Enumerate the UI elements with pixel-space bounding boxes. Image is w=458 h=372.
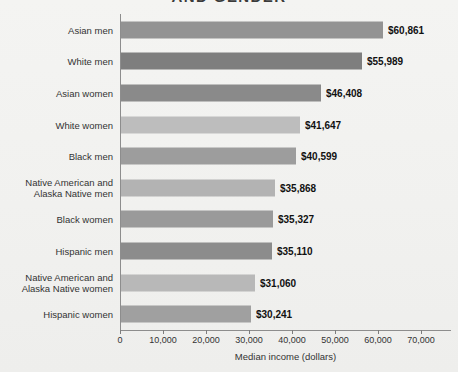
- plot-area: Asian men$60,861White men$55,989Asian wo…: [0, 14, 458, 330]
- bar-category-label: Hispanic men: [0, 245, 113, 256]
- bar-row: Asian men$60,861: [0, 14, 458, 46]
- bar: [121, 211, 273, 228]
- x-axis-tick-mark: [120, 330, 121, 334]
- bar-category-label-line1: Hispanic women: [43, 309, 113, 320]
- bar-category-label: Black men: [0, 151, 113, 162]
- x-axis-tick-label: 40,000: [278, 335, 306, 345]
- bar-value-label: $46,408: [326, 87, 362, 98]
- bar-row: Native American andAlaska Native men$35,…: [0, 172, 458, 204]
- bar-row: Asian women$46,408: [0, 77, 458, 109]
- bar-category-label-line1: Native American and: [25, 272, 113, 283]
- bar: [121, 148, 296, 165]
- x-axis-tick-mark: [335, 330, 336, 334]
- x-axis-tick-label: 30,000: [235, 335, 263, 345]
- x-axis-tick-mark: [378, 330, 379, 334]
- chart-container: AND GENDER Asian men$60,861White men$55,…: [0, 0, 458, 372]
- bar: [121, 179, 275, 196]
- bar-category-label-line2: Alaska Native women: [0, 283, 113, 294]
- bar: [121, 274, 255, 291]
- bar-row: White women$41,647: [0, 109, 458, 141]
- bar: [121, 84, 321, 101]
- x-axis-title: Median income (dollars): [120, 351, 451, 362]
- x-axis: 010,00020,00030,00040,00050,00060,00070,…: [0, 330, 458, 372]
- bar-row: White men$55,989: [0, 46, 458, 78]
- bar-value-label: $35,110: [277, 245, 313, 256]
- bar: [121, 116, 300, 133]
- bar-row: Native American andAlaska Native women$3…: [0, 267, 458, 299]
- bar-row: Black women$35,327: [0, 204, 458, 236]
- bar-category-label-line1: Asian women: [56, 87, 113, 98]
- bar-category-label: Native American andAlaska Native women: [0, 272, 113, 294]
- x-axis-tick-mark: [206, 330, 207, 334]
- x-axis-tick-label: 0: [117, 335, 122, 345]
- x-axis-tick-label: 70,000: [407, 335, 435, 345]
- bar-row: Hispanic women$30,241: [0, 298, 458, 330]
- bar: [121, 53, 362, 70]
- bar-category-label-line1: Native American and: [25, 177, 113, 188]
- bar-category-label-line2: Alaska Native men: [0, 188, 113, 199]
- bar-category-label-line1: Black women: [57, 214, 114, 225]
- bar-value-label: $55,989: [367, 56, 403, 67]
- bar-category-label-line1: Hispanic men: [55, 245, 113, 256]
- bar-value-label: $30,241: [256, 309, 292, 320]
- bar-row: Black men$40,599: [0, 140, 458, 172]
- x-axis-tick-label: 60,000: [364, 335, 392, 345]
- bar-category-label-line1: Asian men: [68, 24, 113, 35]
- x-axis-tick-mark: [421, 330, 422, 334]
- bar: [121, 242, 272, 259]
- bar: [121, 306, 251, 323]
- x-axis-tick-label: 20,000: [192, 335, 220, 345]
- x-axis-tick-mark: [292, 330, 293, 334]
- x-axis-tick-label: 10,000: [149, 335, 177, 345]
- bar-value-label: $41,647: [305, 119, 341, 130]
- bar-row: Hispanic men$35,110: [0, 235, 458, 267]
- bar-category-label-line1: White men: [68, 56, 113, 67]
- bar-category-label: White women: [0, 119, 113, 130]
- bar-value-label: $31,060: [260, 277, 296, 288]
- chart-title: AND GENDER: [0, 0, 458, 7]
- bar-value-label: $35,327: [278, 214, 314, 225]
- bar-category-label-line1: Black men: [69, 151, 113, 162]
- bar-category-label: White men: [0, 56, 113, 67]
- x-axis-tick-mark: [163, 330, 164, 334]
- bar-category-label: Asian women: [0, 87, 113, 98]
- x-axis-tick-mark: [249, 330, 250, 334]
- bar-category-label: Black women: [0, 214, 113, 225]
- bar-category-label: Native American andAlaska Native men: [0, 177, 113, 199]
- bar-category-label: Hispanic women: [0, 309, 113, 320]
- bar: [121, 21, 383, 38]
- bar-value-label: $40,599: [301, 151, 337, 162]
- bar-value-label: $60,861: [388, 24, 424, 35]
- bar-value-label: $35,868: [280, 182, 316, 193]
- bar-category-label: Asian men: [0, 24, 113, 35]
- bar-category-label-line1: White women: [55, 119, 113, 130]
- x-axis-tick-label: 50,000: [321, 335, 349, 345]
